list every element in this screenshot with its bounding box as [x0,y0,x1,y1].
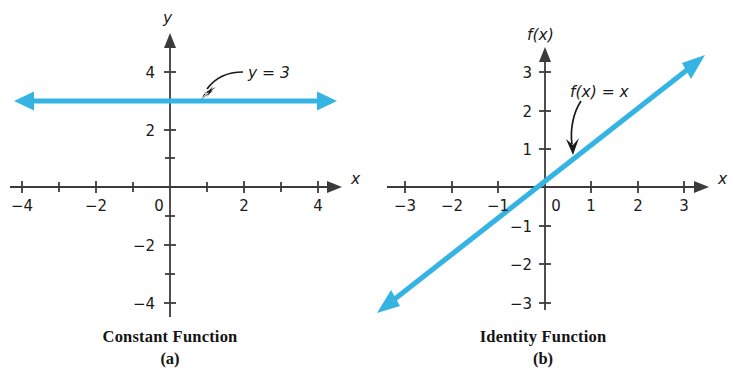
panel-a-y-axis-label: y [162,9,173,27]
panel-a-y-tick-label-2: 2 [145,122,155,140]
panel-b-y-tick-label-2: 2 [522,103,532,121]
panel-b-x-tick-label-neg1: −1 [487,197,509,215]
panel-b-x-tick-label-0: 0 [551,197,561,215]
panel-a-annotation-arrow [200,72,243,100]
panel-a-x-tick-label-0: 0 [154,197,164,215]
panel-a-plot: x y −4 −2 0 2 4 4 2 −2 −4 y = 3 [10,9,361,317]
panel-a-x-tick-label-neg2: −2 [85,197,107,215]
panel-a-x-axis-label: x [350,170,361,188]
panel-b-x-tick-label-1: 1 [586,197,596,215]
panel-b-annotation-arrow [566,101,581,155]
panel-b-y-tick-label-neg1: −1 [510,218,532,236]
panel-b-x-tick-label-neg2: −2 [441,197,463,215]
panel-b-x-tick-label-3: 3 [679,197,689,215]
panel-b-caption-letter: (b) [393,349,693,369]
panel-b-x-tick-label-2: 2 [633,197,643,215]
figure-container: x y −4 −2 0 2 4 4 2 −2 −4 y = 3 [0,0,733,384]
panel-b-y-axis-label: f(x) [527,26,554,44]
panel-a-caption-letter: (a) [20,349,320,369]
panel-b-x-tick-label-neg3: −3 [394,197,416,215]
panel-a-y-tick-label-neg4: −4 [133,295,155,313]
panel-a-x-axis [10,181,342,193]
panel-b-x-axis-label: x [717,170,728,188]
panel-a-x-tick-label-2: 2 [239,197,249,215]
panel-a-y-tick-label-4: 4 [145,64,155,82]
panel-b-curve-identity-line [377,55,705,313]
panel-a-y-axis [164,33,176,317]
panel-b-y-tick-label-neg3: −3 [510,295,532,313]
panel-b-y-tick-label-3: 3 [522,64,532,82]
panel-b-x-axis [387,181,709,193]
panel-b-y-tick-label-neg2: −2 [510,256,532,274]
panel-a-annotation-label: y = 3 [247,64,290,82]
panel-a-x-tick-label-4: 4 [313,197,323,215]
panel-a-curve-constant-line [14,92,337,111]
panel-b-caption-title: Identity Function [393,327,693,347]
panel-b-plot: x f(x) −3 −2 −1 0 1 2 3 3 2 1 −1 −2 −3 f… [377,26,728,313]
panel-a-x-tick-label-neg4: −4 [11,197,33,215]
panel-a-caption-title: Constant Function [20,327,320,347]
panel-b-annotation-label: f(x) = x [570,83,630,101]
panel-b-y-tick-label-1: 1 [522,141,532,159]
panel-a-y-tick-label-neg2: −2 [133,237,155,255]
